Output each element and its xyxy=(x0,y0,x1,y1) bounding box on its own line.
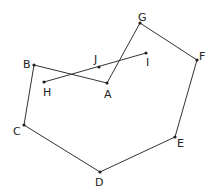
edge-fg xyxy=(140,23,197,60)
point-h-marker xyxy=(42,80,45,83)
point-d-marker xyxy=(98,170,101,173)
diagram-canvas: ABCDEFGHIJ xyxy=(0,0,213,192)
edge-bc xyxy=(24,65,34,125)
point-f-label: F xyxy=(199,50,205,63)
point-i-marker xyxy=(144,51,147,54)
point-h-label: H xyxy=(43,86,51,99)
point-d-label: D xyxy=(95,176,103,189)
edge-ga xyxy=(107,23,140,83)
edge-ef xyxy=(175,60,197,137)
point-j-marker xyxy=(97,65,100,68)
point-g-label: G xyxy=(138,11,147,24)
edge-de xyxy=(100,137,175,172)
point-b-label: B xyxy=(23,58,31,71)
edge-cd xyxy=(24,125,100,172)
point-a-marker xyxy=(105,81,108,84)
point-c-label: C xyxy=(13,125,21,138)
point-c-marker xyxy=(22,123,25,126)
point-b-marker xyxy=(32,63,35,66)
point-e-label: E xyxy=(177,137,184,150)
point-a-label: A xyxy=(104,88,112,101)
point-j-label: J xyxy=(93,53,97,66)
point-i-label: I xyxy=(146,56,149,69)
labels-group: ABCDEFGHIJ xyxy=(13,11,205,189)
